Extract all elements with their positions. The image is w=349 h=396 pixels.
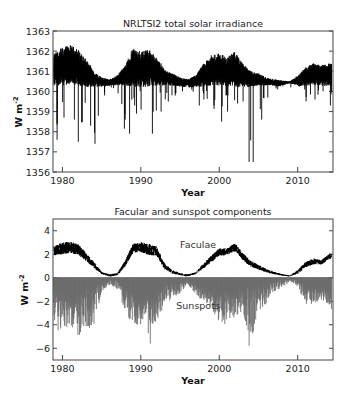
x-tick-label: 1990: [129, 175, 153, 186]
y-tick-label: 1361: [26, 66, 50, 77]
y-tick-label: 1363: [26, 26, 50, 37]
faculae-label: Faculae: [180, 239, 216, 250]
y-tick-label: −4: [36, 319, 50, 330]
x-tick-label: 1980: [50, 175, 74, 186]
top-x-label: Year: [180, 187, 205, 198]
bottom-x-label: Year: [180, 375, 205, 386]
bottom-x-axis: 1980199020002010: [50, 355, 309, 374]
y-tick-label: −6: [36, 343, 50, 354]
sunspots-label: Sunspots: [176, 300, 220, 311]
x-tick-label: 2000: [207, 175, 231, 186]
y-tick-label: 4: [44, 225, 50, 236]
top-chart-title: NRLTSI2 total solar irradiance: [123, 18, 263, 29]
svg-text:W m-2: W m-2: [12, 97, 24, 128]
bottom-chart-title: Facular and sunspot components: [114, 206, 271, 217]
tsi-series: [54, 45, 332, 162]
x-tick-label: 1990: [129, 363, 153, 374]
svg-text:W m-2: W m-2: [18, 275, 30, 306]
y-tick-label: 1357: [26, 146, 50, 157]
top-y-label: W m-2: [12, 97, 24, 128]
y-tick-label: 1358: [26, 126, 50, 137]
x-tick-label: 1980: [50, 363, 74, 374]
bottom-y-label: W m-2: [18, 275, 30, 306]
x-tick-label: 2010: [286, 175, 310, 186]
y-tick-label: 0: [44, 272, 50, 283]
y-tick-label: −2: [36, 296, 50, 307]
components-series: [53, 242, 333, 346]
y-tick-label: 1360: [26, 86, 50, 97]
x-tick-label: 2010: [286, 363, 310, 374]
y-tick-label: 1356: [26, 167, 50, 178]
y-tick-label: 1362: [26, 46, 50, 57]
x-tick-label: 2000: [207, 363, 231, 374]
top-x-axis: 1980199020002010: [50, 167, 309, 186]
y-tick-label: 2: [44, 249, 50, 260]
figure: NRLTSI2 total solar irradiance 135613571…: [0, 0, 349, 396]
y-tick-label: 1359: [26, 106, 50, 117]
